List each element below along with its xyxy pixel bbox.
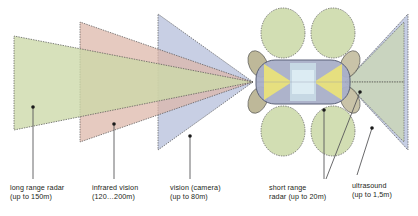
leader-dot-infrared-vision [112, 122, 116, 126]
leader-dot-short-range-radar-a [322, 108, 326, 112]
ultrasound-ellipse-front-right [311, 8, 355, 58]
sensor-coverage-diagram: long range radar (up to 150m) infrared v… [0, 0, 418, 216]
leader-dot-long-range-radar [31, 105, 35, 109]
label-short-range-radar: short range radar (up to 20m) [269, 183, 326, 202]
ultrasound-ellipse-front-left [261, 8, 305, 58]
leader-dot-vision-camera [188, 134, 192, 138]
label-long-range-radar: long range radar (up to 150m) [10, 183, 64, 202]
leader-ultrasound [357, 128, 372, 175]
ultrasound-ellipse-rear-left [261, 106, 305, 156]
leader-dot-ultrasound [370, 126, 374, 130]
label-vision-camera: vision (camera) (up to 80m) [170, 183, 221, 202]
label-infrared-vision: infrared vision (120…200m) [92, 183, 138, 202]
ultrasound-ellipse-rear-right [311, 106, 355, 156]
label-ultrasound: ultrasound (up to 1,5m) [352, 181, 392, 200]
leader-dot-short-range-radar-b [358, 90, 362, 94]
